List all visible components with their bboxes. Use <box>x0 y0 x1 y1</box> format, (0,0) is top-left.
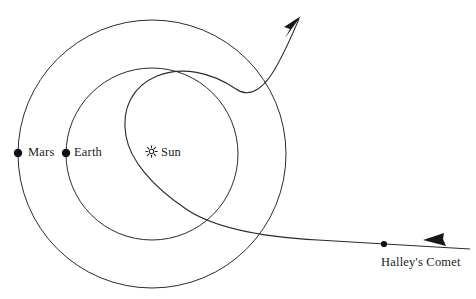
mars-dot-icon <box>14 149 22 157</box>
earth-dot-icon <box>62 149 70 157</box>
comet-inbound-arrowhead-icon <box>423 233 446 246</box>
sun-icon <box>145 145 158 158</box>
comet-trajectory-path <box>125 19 470 249</box>
mars-label: Mars <box>28 146 55 159</box>
earth-label: Earth <box>74 146 102 159</box>
comet-label: Halley's Comet <box>381 256 461 269</box>
comet-dot-icon <box>381 241 387 247</box>
orbit-diagram: Mars Earth Sun Halley's Comet <box>0 0 476 299</box>
sun-label: Sun <box>161 146 181 159</box>
